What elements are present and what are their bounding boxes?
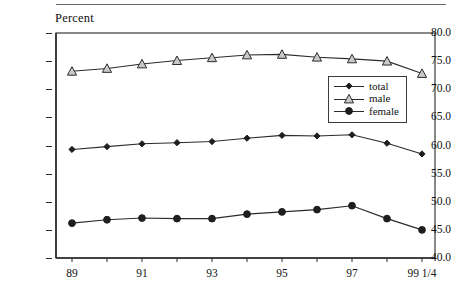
x-axis-tick-label: 93 bbox=[206, 267, 218, 279]
chart-legend: totalmalefemale bbox=[328, 76, 407, 123]
triangle-open-icon bbox=[334, 93, 364, 105]
y-axis-tick bbox=[46, 258, 52, 259]
data-point-circle bbox=[209, 215, 216, 222]
data-point-diamond bbox=[209, 138, 215, 144]
data-point-triangle bbox=[344, 94, 353, 103]
data-point-diamond bbox=[69, 146, 75, 152]
data-point-circle bbox=[104, 216, 111, 223]
data-point-circle bbox=[174, 215, 181, 222]
x-axis-tick-label: 89 bbox=[66, 267, 78, 279]
y-axis-ticks bbox=[0, 0, 52, 294]
data-point-diamond bbox=[346, 83, 352, 89]
data-point-diamond bbox=[139, 141, 145, 147]
data-point-diamond bbox=[244, 135, 250, 141]
legend-item-total: total bbox=[334, 80, 399, 93]
y-axis-tick bbox=[46, 61, 52, 62]
plot-frame bbox=[56, 33, 435, 258]
legend-item-female: female bbox=[334, 105, 399, 118]
y-axis-tick-label: 70.0 bbox=[415, 83, 451, 95]
line-chart: Percent 40.045.050.055.060.065.070.075.0… bbox=[0, 0, 451, 294]
plot-area bbox=[0, 0, 451, 294]
series-female bbox=[69, 202, 426, 233]
y-axis-tick-label: 60.0 bbox=[415, 140, 451, 152]
data-point-diamond bbox=[419, 151, 425, 157]
y-axis-tick-label: 75.0 bbox=[415, 55, 451, 67]
data-point-circle bbox=[384, 215, 391, 222]
legend-label: male bbox=[364, 93, 390, 104]
data-point-triangle bbox=[417, 69, 426, 78]
y-axis-tick bbox=[46, 89, 52, 90]
y-axis-tick bbox=[46, 117, 52, 118]
data-point-diamond bbox=[384, 140, 390, 146]
y-axis-tick bbox=[46, 230, 52, 231]
data-point-diamond bbox=[349, 132, 355, 138]
data-point-diamond bbox=[174, 140, 180, 146]
data-point-diamond bbox=[279, 132, 285, 138]
y-axis-tick-label: 50.0 bbox=[415, 196, 451, 208]
data-point-diamond bbox=[314, 133, 320, 139]
y-axis-tick-label: 65.0 bbox=[415, 111, 451, 123]
y-axis-tick bbox=[46, 174, 52, 175]
y-axis-tick-label: 80.0 bbox=[415, 27, 451, 39]
legend-label: female bbox=[364, 106, 399, 117]
circle-filled-icon bbox=[334, 105, 364, 117]
data-point-circle bbox=[69, 220, 76, 227]
data-point-circle bbox=[349, 202, 356, 209]
x-axis-tick-label: 99 1/4 bbox=[407, 267, 436, 279]
x-axis-tick-label: 97 bbox=[346, 267, 358, 279]
y-axis-tick-label: 55.0 bbox=[415, 168, 451, 180]
data-point-circle bbox=[314, 206, 321, 213]
y-axis-tick-label: 45.0 bbox=[415, 224, 451, 236]
series-total bbox=[69, 132, 425, 157]
series-male bbox=[67, 50, 426, 78]
y-axis-title: Percent bbox=[55, 11, 94, 26]
y-axis-tick bbox=[46, 33, 52, 34]
data-point-circle bbox=[139, 215, 146, 222]
data-point-circle bbox=[279, 208, 286, 215]
legend-label: total bbox=[364, 81, 389, 92]
x-axis-tick-label: 95 bbox=[276, 267, 288, 279]
data-point-diamond bbox=[104, 144, 110, 150]
data-point-circle bbox=[244, 211, 251, 218]
legend-item-male: male bbox=[334, 93, 399, 106]
y-axis-tick bbox=[46, 146, 52, 147]
x-axis-tick-label: 91 bbox=[136, 267, 148, 279]
y-axis-tick bbox=[46, 202, 52, 203]
data-point-circle bbox=[346, 108, 353, 115]
diamond-filled-icon bbox=[334, 80, 364, 92]
y-axis-tick-label: 40.0 bbox=[415, 252, 451, 264]
